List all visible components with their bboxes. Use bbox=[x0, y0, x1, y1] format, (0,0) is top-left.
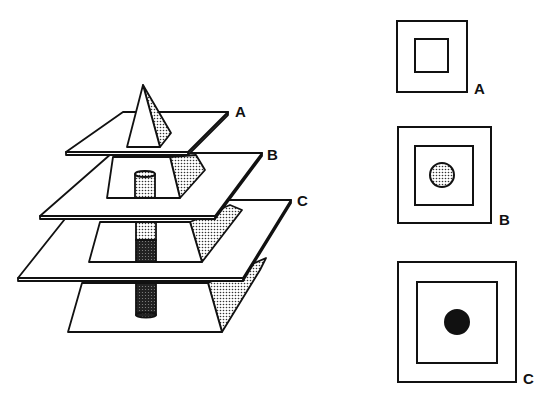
cylinder-bottom bbox=[136, 283, 156, 318]
label-section-a: A bbox=[474, 80, 485, 97]
label-plane-b: B bbox=[267, 146, 278, 163]
label-plane-c: C bbox=[297, 192, 308, 209]
cylinder-middle bbox=[136, 222, 156, 262]
label-section-c: C bbox=[523, 370, 534, 387]
diagram-canvas: A B C A B C bbox=[0, 0, 548, 398]
section-c bbox=[398, 262, 516, 382]
cylinder-top bbox=[135, 171, 155, 198]
section-a bbox=[397, 21, 467, 92]
section-b bbox=[398, 127, 491, 223]
label-plane-a: A bbox=[235, 103, 246, 120]
label-section-b: B bbox=[499, 211, 510, 228]
